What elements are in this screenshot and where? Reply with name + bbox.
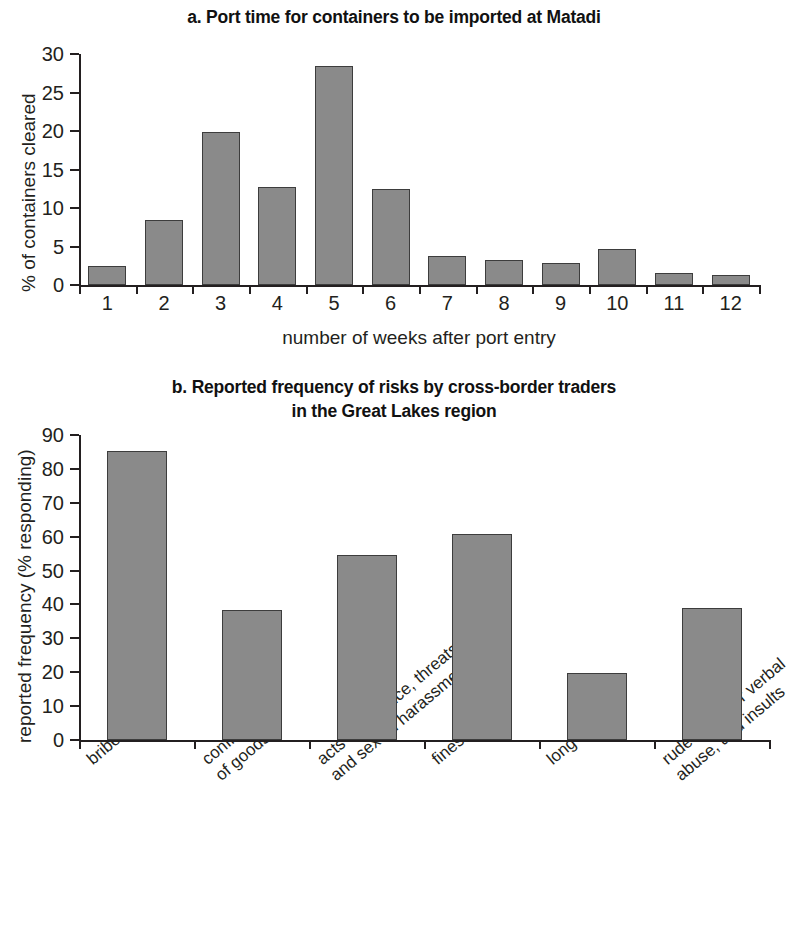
bar <box>337 555 397 740</box>
x-tick-label: 9 <box>532 293 589 313</box>
x-tick-label: 12 <box>702 293 759 313</box>
y-tick-mark <box>70 169 79 171</box>
y-tick-mark <box>70 434 79 436</box>
bar <box>222 610 282 740</box>
y-tick-mark <box>70 207 79 209</box>
bar <box>567 673 627 740</box>
y-tick-label: 20 <box>0 662 64 682</box>
bar <box>712 275 750 285</box>
y-tick-mark <box>70 502 79 504</box>
bar <box>107 451 167 740</box>
y-tick-label: 5 <box>0 237 64 257</box>
figure-root: a. Port time for containers to be import… <box>0 0 788 926</box>
x-tick-label: 3 <box>192 293 249 313</box>
panel-a-x-axis-line <box>79 285 759 287</box>
bar <box>372 189 410 285</box>
y-tick-label: 70 <box>0 493 64 513</box>
panel-a-y-axis-line <box>79 54 81 287</box>
chart-panel-a: % of containers cleared 051015202530 123… <box>0 40 788 350</box>
bar <box>485 260 523 285</box>
x-tick-mark <box>759 285 761 294</box>
y-tick-mark <box>70 570 79 572</box>
x-tick-label: 7 <box>419 293 476 313</box>
y-tick-mark <box>70 637 79 639</box>
x-tick-label: 10 <box>589 293 646 313</box>
y-tick-label: 50 <box>0 561 64 581</box>
bar <box>428 256 466 285</box>
y-tick-mark <box>70 705 79 707</box>
panel-a-title: a. Port time for containers to be import… <box>0 6 788 30</box>
y-tick-label: 10 <box>0 696 64 716</box>
y-tick-label: 0 <box>0 275 64 295</box>
y-tick-label: 90 <box>0 425 64 445</box>
x-tick-mark <box>769 740 771 749</box>
y-tick-label: 15 <box>0 160 64 180</box>
y-tick-mark <box>70 671 79 673</box>
x-tick-label: 2 <box>136 293 193 313</box>
bar <box>655 273 693 285</box>
y-tick-mark <box>70 53 79 55</box>
y-tick-label: 30 <box>0 44 64 64</box>
x-tick-label: 1 <box>79 293 136 313</box>
bar <box>88 266 126 285</box>
y-tick-label: 10 <box>0 198 64 218</box>
panel-b-title-line1: b. Reported frequency of risks by cross-… <box>172 377 616 397</box>
panel-a-x-axis-title: number of weeks after port entry <box>79 327 759 349</box>
x-tick-label: 4 <box>249 293 306 313</box>
y-tick-mark <box>70 284 79 286</box>
y-tick-mark <box>70 130 79 132</box>
y-tick-label: 80 <box>0 459 64 479</box>
y-tick-mark <box>70 536 79 538</box>
bar <box>682 608 742 740</box>
chart-panel-b: reported frequency (% responding) 010203… <box>0 430 788 926</box>
y-tick-mark <box>70 92 79 94</box>
panel-b-title: b. Reported frequency of risks by cross-… <box>0 376 788 423</box>
x-tick-label: 8 <box>476 293 533 313</box>
y-tick-mark <box>70 468 79 470</box>
y-tick-mark <box>70 739 79 741</box>
y-tick-label: 60 <box>0 527 64 547</box>
bar <box>598 249 636 285</box>
bar <box>202 132 240 285</box>
bar <box>258 187 296 285</box>
x-tick-label: 5 <box>306 293 363 313</box>
y-tick-label: 0 <box>0 730 64 750</box>
panel-b-x-axis-line <box>79 740 769 742</box>
bar <box>315 66 353 285</box>
panel-b-y-axis-line <box>79 435 81 742</box>
x-tick-label: 11 <box>646 293 703 313</box>
bar <box>145 220 183 285</box>
panel-b-title-line2: in the Great Lakes region <box>291 401 496 421</box>
x-tick-label: 6 <box>362 293 419 313</box>
y-tick-mark <box>70 603 79 605</box>
y-tick-label: 30 <box>0 628 64 648</box>
y-tick-label: 40 <box>0 594 64 614</box>
y-tick-label: 25 <box>0 83 64 103</box>
y-tick-mark <box>70 246 79 248</box>
y-tick-label: 20 <box>0 121 64 141</box>
bar <box>452 534 512 740</box>
bar <box>542 263 580 285</box>
